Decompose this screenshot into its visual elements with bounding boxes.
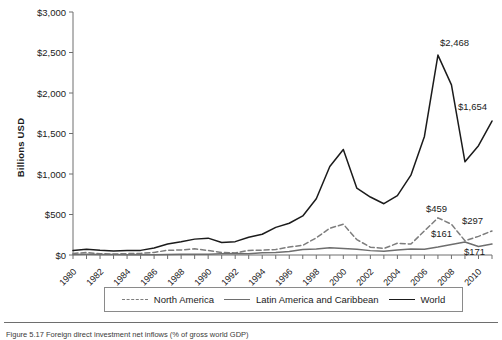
world-peak-2007: $2,468 — [440, 37, 469, 48]
legend-swatch-gray-line-icon — [224, 299, 250, 300]
figure-container: Billions USD $3,000 $2,500 $2,000 $1,500… — [0, 0, 502, 340]
caption-divider — [4, 322, 498, 323]
north-america-end-2011: $297 — [462, 215, 483, 226]
legend-item-world: World — [389, 294, 446, 305]
figure-caption: Figure 5.17 Foreign direct investment ne… — [6, 330, 496, 340]
legend-swatch-black-line-icon — [389, 299, 415, 300]
latin-america-2008: $161 — [431, 228, 452, 239]
world-end-2011: $1,654 — [458, 101, 487, 112]
legend-label: North America — [154, 294, 214, 305]
legend-swatch-dashed-icon — [122, 299, 148, 300]
legend-item-north-america: North America — [122, 294, 214, 305]
legend-label: Latin America and Caribbean — [256, 294, 379, 305]
legend-label: World — [421, 294, 446, 305]
legend-item-latin-america-and-caribbean: Latin America and Caribbean — [224, 294, 379, 305]
latin-america-end-2011: $171 — [464, 246, 485, 257]
north-america-peak-2007: $459 — [426, 203, 447, 214]
chart-legend: North America Latin America and Caribbea… — [104, 287, 463, 312]
